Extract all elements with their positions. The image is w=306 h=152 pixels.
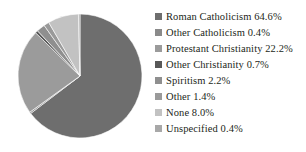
pie-chart-svg (0, 0, 152, 152)
legend-item[interactable]: Unspecified 0.4% (155, 121, 306, 137)
legend-item-label: Spiritism 2.2% (166, 73, 230, 89)
legend-swatch-icon (155, 125, 162, 132)
legend-item[interactable]: Protestant Christianity 22.2% (155, 41, 306, 57)
legend-item-label: Other 1.4% (166, 89, 215, 105)
legend-swatch-icon (155, 61, 162, 68)
legend-swatch-icon (155, 77, 162, 84)
pie-chart (0, 0, 152, 152)
legend-swatch-icon (155, 29, 162, 36)
legend-item[interactable]: None 8.0% (155, 105, 306, 121)
legend-swatch-icon (155, 109, 162, 116)
chart-legend: Roman Catholicism 64.6%Other Catholicism… (155, 9, 306, 137)
legend-item-label: Roman Catholicism 64.6% (166, 9, 282, 25)
legend-item-label: Protestant Christianity 22.2% (166, 41, 293, 57)
legend-item[interactable]: Spiritism 2.2% (155, 73, 306, 89)
legend-swatch-icon (155, 93, 162, 100)
legend-swatch-icon (155, 13, 162, 20)
legend-swatch-icon (155, 45, 162, 52)
legend-item[interactable]: Other Christianity 0.7% (155, 57, 306, 73)
legend-item-label: Unspecified 0.4% (166, 121, 243, 137)
pie-chart-screenshot: Roman Catholicism 64.6%Other Catholicism… (0, 0, 306, 152)
legend-item-label: Other Christianity 0.7% (166, 57, 269, 73)
legend-item-label: None 8.0% (166, 105, 214, 121)
legend-item[interactable]: Other 1.4% (155, 89, 306, 105)
legend-item[interactable]: Other Catholicism 0.4% (155, 25, 306, 41)
legend-item-label: Other Catholicism 0.4% (166, 25, 270, 41)
legend-item[interactable]: Roman Catholicism 64.6% (155, 9, 306, 25)
